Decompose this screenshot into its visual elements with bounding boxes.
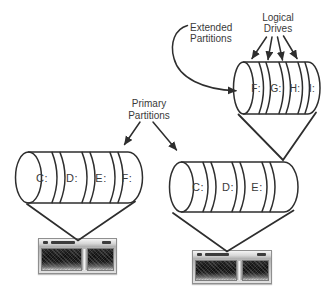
disk-partition-dividers xyxy=(203,162,275,211)
logical-to-extended-funnel xyxy=(239,113,317,161)
drive-letter: D: xyxy=(222,181,234,193)
primary-partitions-arrow-left xyxy=(125,122,141,145)
disk-partition-dividers xyxy=(259,62,310,113)
partitioning-diagram: C: D: E: F: C: D: E: F: G: H: I: Primary… xyxy=(0,0,328,290)
primary-partitions-label-line2: Partitions xyxy=(128,110,170,121)
drive-letter: C: xyxy=(36,172,48,184)
disk-left-cap xyxy=(170,162,194,212)
drive-letter: H: xyxy=(290,83,301,94)
right-disk-to-computer-funnel xyxy=(173,211,294,252)
logical-drives-arrow-1 xyxy=(252,37,267,59)
drive-letter: D: xyxy=(66,172,78,184)
logical-drives-arrow-2 xyxy=(268,37,272,60)
left-disk-to-computer-funnel xyxy=(27,202,135,241)
drive-letter: I: xyxy=(309,83,315,94)
drive-letter: E: xyxy=(95,172,106,184)
logical-drives-arrow-4 xyxy=(284,36,298,59)
primary-partitions-label-line1: Primary xyxy=(132,98,166,109)
drive-letter: E: xyxy=(251,181,262,193)
drive-letter: F: xyxy=(251,83,261,94)
drive-letter: C: xyxy=(192,181,204,193)
extended-partitions-label-line1: Extended xyxy=(190,22,232,33)
disk-partition-dividers xyxy=(52,152,123,202)
drive-letter: F: xyxy=(122,172,133,184)
extended-partitions-label-line2: Partitions xyxy=(190,33,232,44)
logical-drives-label-line1: Logical xyxy=(262,12,294,23)
diagram-line-art: C: D: E: F: C: D: E: F: G: H: I: Primary… xyxy=(0,0,328,290)
logical-drives-label-line2: Drives xyxy=(264,23,292,34)
line-art-group xyxy=(16,26,321,252)
drive-letter: G: xyxy=(270,83,281,94)
primary-partitions-arrow-right xyxy=(153,122,177,150)
logical-drives-arrow-3 xyxy=(278,37,283,60)
